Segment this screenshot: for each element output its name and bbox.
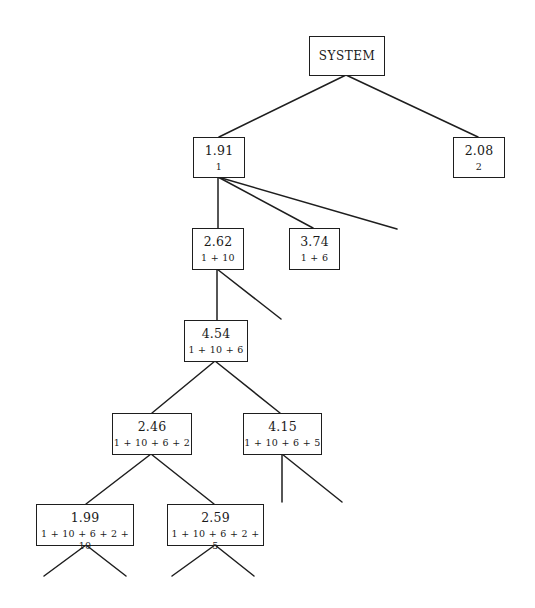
node-path: 1 + 10 + 6 + 2 + 5 xyxy=(168,528,263,552)
node-4-15: 4.15 1 + 10 + 6 + 5 xyxy=(243,413,322,455)
node-4-54: 4.54 1 + 10 + 6 xyxy=(184,320,248,362)
node-value: 2.59 xyxy=(168,511,263,525)
edge-454-415 xyxy=(215,361,280,413)
node-path: 1 + 10 xyxy=(193,252,243,264)
node-path: 1 + 6 xyxy=(290,252,339,264)
edge-454-246 xyxy=(152,361,215,413)
edge-191-374 xyxy=(218,177,313,228)
edge-system-208 xyxy=(346,75,478,137)
node-label: SYSTEM xyxy=(319,49,375,63)
edge-246-259 xyxy=(151,454,214,504)
node-path: 2 xyxy=(454,161,504,173)
node-2-08: 2.08 2 xyxy=(453,137,505,178)
node-path: 1 + 10 + 6 + 2 + 10 xyxy=(37,528,133,552)
node-path: 1 xyxy=(194,161,244,173)
node-1-91: 1.91 1 xyxy=(193,137,245,178)
node-value: 1.91 xyxy=(194,144,244,158)
node-value: 3.74 xyxy=(290,235,339,249)
node-value: 2.46 xyxy=(113,420,191,434)
edge-415-open-b xyxy=(282,454,342,502)
node-2-62: 2.62 1 + 10 xyxy=(192,228,244,270)
node-2-59: 2.59 1 + 10 + 6 + 2 + 5 xyxy=(167,504,264,546)
edge-262-open xyxy=(217,269,281,319)
node-path: 1 + 10 + 6 + 2 xyxy=(113,437,191,449)
node-3-74: 3.74 1 + 6 xyxy=(289,228,340,270)
node-value: 2.08 xyxy=(454,144,504,158)
node-2-46: 2.46 1 + 10 + 6 + 2 xyxy=(112,413,192,455)
node-path: 1 + 10 + 6 + 5 xyxy=(244,437,321,449)
node-value: 1.99 xyxy=(37,511,133,525)
edge-system-191 xyxy=(219,75,346,137)
node-value: 2.62 xyxy=(193,235,243,249)
edge-246-199 xyxy=(86,454,151,504)
edge-191-open xyxy=(218,177,397,229)
node-1-99: 1.99 1 + 10 + 6 + 2 + 10 xyxy=(36,504,134,546)
node-path: 1 + 10 + 6 xyxy=(185,344,247,356)
node-system: SYSTEM xyxy=(309,36,385,76)
node-value: 4.15 xyxy=(244,420,321,434)
node-value: 4.54 xyxy=(185,327,247,341)
